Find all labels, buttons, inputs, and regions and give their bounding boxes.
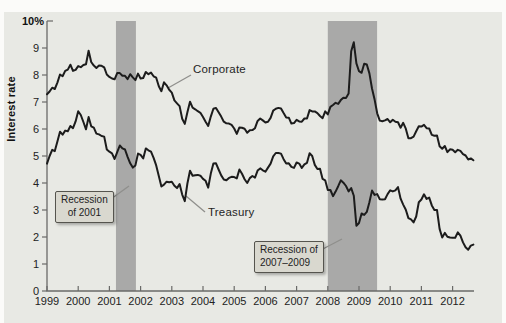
y-tick-label: 9 [33, 42, 39, 54]
y-axis-title: Interest rate [5, 64, 17, 154]
y-tick-label: 4 [33, 177, 39, 189]
recession-2007-2009-callout-line2: 2007–2009 [260, 257, 318, 270]
corporate-series-label: Corporate [193, 63, 246, 75]
recession-2007-2009-callout: Recession of 2007–2009 [254, 241, 324, 273]
x-tick-label: 2011 [410, 295, 434, 307]
y-axis-top-label: 10% [22, 15, 44, 27]
x-tick-label: 2002 [128, 295, 152, 307]
recession-2001-callout: Recession of 2001 [55, 191, 114, 223]
x-tick-label: 2001 [97, 295, 121, 307]
y-tick-label: 5 [33, 150, 39, 162]
treasury-line [47, 111, 473, 250]
recession-2001-callout-line1: Recession [61, 194, 108, 207]
x-tick-label: 2007 [284, 295, 308, 307]
y-tick-label: 6 [33, 123, 39, 135]
x-tick-label: 2008 [316, 295, 340, 307]
x-tick-label: 1999 [35, 295, 59, 307]
recession-2007-2009-callout-line1: Recession of [260, 244, 318, 257]
x-tick-label: 2005 [222, 295, 246, 307]
x-tick-label: 2003 [160, 295, 184, 307]
x-tick-label: 2010 [378, 295, 402, 307]
y-tick-label: 8 [33, 69, 39, 81]
y-tick-label: 7 [33, 96, 39, 108]
interest-rate-chart: 012345678910%199920002001200220032004200… [0, 0, 506, 323]
corporate-leader-line [168, 75, 191, 88]
recession-2001-callout-line2: of 2001 [61, 207, 108, 220]
x-tick-label: 2009 [347, 295, 371, 307]
figure: 012345678910%199920002001200220032004200… [0, 0, 506, 323]
treasury-leader-line [186, 196, 205, 212]
y-tick-label: 1 [33, 258, 39, 270]
recession-band-2 [328, 21, 377, 291]
treasury-series-label: Treasury [208, 206, 255, 218]
x-tick-label: 2004 [191, 295, 215, 307]
corporate-line [47, 42, 473, 160]
recession-band-1 [116, 21, 136, 291]
y-tick-label: 3 [33, 204, 39, 216]
x-tick-label: 2000 [66, 295, 90, 307]
y-tick-label: 2 [33, 231, 39, 243]
x-tick-label: 2006 [253, 295, 277, 307]
x-tick-label: 2012 [440, 295, 464, 307]
